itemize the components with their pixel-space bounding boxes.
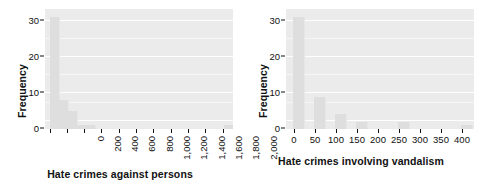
x-tick-label-right-250: 250 — [391, 134, 407, 145]
y-tick-mark-right-30 — [281, 20, 285, 21]
x-tick-mark-left-200 — [67, 129, 68, 133]
y-tick-mark-right-0 — [281, 128, 285, 129]
y-tick-mark-left-0 — [40, 128, 44, 129]
x-axis-title-right: Hate crimes involving vandalism — [241, 155, 481, 167]
x-tick-mark-left-800 — [119, 129, 120, 133]
bar-right-250 — [398, 122, 410, 129]
y-tick-mark-left-20 — [40, 56, 44, 57]
gridline-right-15 — [286, 74, 474, 75]
gridline-right-10 — [286, 92, 474, 93]
y-tick-label-left-20: 20 — [17, 51, 39, 62]
gridline-left-30 — [45, 20, 233, 21]
bar-right-0 — [293, 17, 305, 129]
y-tick-mark-left-30 — [40, 20, 44, 21]
x-tick-mark-left-1200 — [153, 129, 154, 133]
gridline-left-5 — [45, 102, 233, 103]
y-tick-label-left-10: 10 — [17, 87, 39, 98]
gridline-left-10 — [45, 92, 233, 93]
x-tick-mark-right-250 — [399, 129, 400, 133]
x-tick-mark-right-350 — [441, 129, 442, 133]
gridline-left-20 — [45, 56, 233, 57]
x-tick-label-right-200: 200 — [370, 134, 386, 145]
x-tick-mark-left-1600 — [188, 129, 189, 133]
x-tick-label-right-150: 150 — [349, 134, 365, 145]
y-tick-label-right-0: 0 — [258, 123, 280, 134]
y-tick-label-right-20: 20 — [258, 51, 280, 62]
x-tick-mark-right-300 — [420, 129, 421, 133]
y-tick-label-left-0: 0 — [17, 123, 39, 134]
y-tick-label-right-10: 10 — [258, 87, 280, 98]
y-tick-mark-right-20 — [281, 56, 285, 57]
x-axis-title-left: Hate crimes against persons — [0, 168, 240, 180]
bar-left-2000 — [224, 125, 233, 129]
histogram-panel-left: Frequency 30 20 10 0 — [0, 0, 240, 184]
x-tick-mark-left-0 — [50, 129, 51, 133]
bar-right-50 — [314, 97, 326, 129]
x-tick-mark-left-1000 — [136, 129, 137, 133]
gridline-left-25 — [45, 38, 233, 39]
gridline-right-25 — [286, 38, 474, 39]
gridline-right-30 — [286, 20, 474, 21]
x-tick-mark-right-200 — [378, 129, 379, 133]
x-tick-label-right-300: 300 — [412, 134, 428, 145]
x-tick-label-right-350: 350 — [433, 134, 449, 145]
x-tick-mark-left-600 — [101, 129, 102, 133]
x-tick-mark-left-2000 — [223, 129, 224, 133]
plot-area-left — [45, 9, 233, 129]
bar-right-150 — [356, 122, 368, 129]
plot-area-right — [286, 9, 474, 129]
gridline-right-20 — [286, 56, 474, 57]
x-tick-label-right-100: 100 — [328, 134, 344, 145]
y-tick-mark-left-10 — [40, 92, 44, 93]
y-tick-label-right-30: 30 — [258, 15, 280, 26]
y-tick-mark-right-10 — [281, 92, 285, 93]
gridline-left-15 — [45, 74, 233, 75]
bar-left-400 — [86, 125, 96, 129]
x-tick-mark-right-100 — [336, 129, 337, 133]
x-tick-mark-left-1800 — [205, 129, 206, 133]
figure-canvas: Frequency 30 20 10 0 — [0, 0, 481, 184]
x-tick-mark-right-50 — [315, 129, 316, 133]
histogram-panel-right: Frequency 30 20 10 0 — [241, 0, 481, 184]
x-tick-label-right-50: 50 — [310, 134, 321, 145]
y-tick-label-left-30: 30 — [17, 15, 39, 26]
x-tick-label-right-0: 0 — [291, 134, 296, 145]
bar-right-100 — [335, 114, 347, 129]
x-tick-mark-right-0 — [294, 129, 295, 133]
x-tick-mark-right-150 — [357, 129, 358, 133]
x-tick-mark-right-400 — [462, 129, 463, 133]
x-tick-mark-left-1400 — [171, 129, 172, 133]
x-tick-mark-left-400 — [84, 129, 85, 133]
x-tick-label-right-400: 400 — [454, 134, 470, 145]
